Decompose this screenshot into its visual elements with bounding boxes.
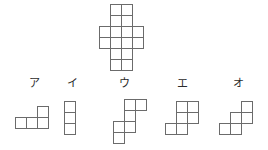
option-label-a: ア xyxy=(24,78,44,89)
grid-cell xyxy=(37,117,48,128)
grid-cell xyxy=(187,101,198,112)
grid-cell xyxy=(121,26,132,37)
grid-cell xyxy=(121,59,132,70)
grid-cell xyxy=(176,101,187,112)
grid-cell xyxy=(121,4,132,15)
grid-cell xyxy=(121,37,132,48)
grid-cell xyxy=(64,112,75,123)
grid-cell xyxy=(132,37,143,48)
option-shape-e[interactable] xyxy=(218,100,253,135)
grid-cell xyxy=(113,121,124,132)
grid-cell xyxy=(176,112,187,123)
grid-cell xyxy=(176,123,187,134)
grid-cell xyxy=(110,37,121,48)
grid-cell xyxy=(26,117,37,128)
grid-cell xyxy=(64,101,75,112)
grid-cell xyxy=(124,110,135,121)
grid-cell xyxy=(230,123,241,134)
grid-cell xyxy=(230,112,241,123)
prompt-cross-net xyxy=(98,3,144,71)
option-label-e: オ xyxy=(228,78,248,89)
grid-cell xyxy=(99,37,110,48)
grid-cell xyxy=(135,99,146,110)
option-label-b: イ xyxy=(62,78,82,89)
grid-cell xyxy=(110,15,121,26)
option-shape-a[interactable] xyxy=(14,105,49,129)
grid-cell xyxy=(219,123,230,134)
puzzle-figure: ア イ ウ エ オ xyxy=(0,0,268,150)
grid-cell xyxy=(15,117,26,128)
grid-cell xyxy=(124,121,135,132)
grid-cell xyxy=(110,4,121,15)
grid-cell xyxy=(124,99,135,110)
grid-cell xyxy=(110,48,121,59)
option-shape-b[interactable] xyxy=(63,100,76,135)
grid-cell xyxy=(241,101,252,112)
grid-cell xyxy=(99,26,110,37)
grid-cell xyxy=(132,26,143,37)
option-shape-c[interactable] xyxy=(101,98,147,144)
grid-cell xyxy=(64,123,75,134)
grid-cell xyxy=(37,106,48,117)
grid-cell xyxy=(121,15,132,26)
grid-cell xyxy=(113,132,124,143)
grid-cell xyxy=(187,112,198,123)
option-label-c: ウ xyxy=(114,78,134,89)
grid-cell xyxy=(110,26,121,37)
grid-cell xyxy=(165,123,176,134)
grid-cell xyxy=(110,59,121,70)
grid-cell xyxy=(121,48,132,59)
grid-cell xyxy=(241,112,252,123)
option-label-d: エ xyxy=(172,78,192,89)
option-shape-d[interactable] xyxy=(164,100,199,135)
